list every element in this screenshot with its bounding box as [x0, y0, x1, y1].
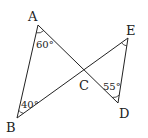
geometry-diagram: A B C D E 60° 40° 55°	[0, 0, 148, 138]
point-label-e: E	[126, 23, 136, 38]
angle-label-d: 55°	[103, 81, 121, 92]
angle-arc-a	[36, 31, 43, 33]
segment-ed	[118, 38, 128, 103]
angle-arc-e	[122, 43, 127, 46]
point-label-d: D	[119, 106, 129, 121]
point-label-a: A	[27, 9, 38, 24]
angle-arc-d	[112, 95, 119, 97]
diagram-canvas: A B C D E 60° 40° 55°	[0, 0, 148, 138]
angle-label-a: 60°	[36, 39, 54, 50]
angle-arc-b	[19, 110, 24, 113]
point-label-b: B	[6, 120, 16, 135]
angle-label-b: 40°	[21, 99, 39, 110]
point-label-c: C	[79, 78, 89, 93]
